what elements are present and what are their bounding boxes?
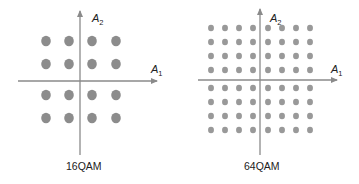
constellation-point [279, 53, 285, 59]
constellation-point [250, 39, 256, 45]
constellation-point [111, 113, 121, 123]
constellation-point [236, 67, 242, 73]
constellation-point [293, 85, 299, 91]
constellation-point [265, 53, 271, 59]
constellation-point [236, 39, 242, 45]
constellation-point [236, 99, 242, 105]
constellation-point [236, 85, 242, 91]
constellation-point [279, 113, 285, 119]
constellation-point [250, 25, 256, 31]
constellation-point [265, 67, 271, 73]
constellation-point [265, 127, 271, 133]
x-axis-label-64qam: A1 [330, 63, 343, 78]
constellation-point [307, 127, 313, 133]
constellation-point [250, 99, 256, 105]
constellation-point [293, 67, 299, 73]
constellation-point [250, 53, 256, 59]
constellation-point [208, 53, 214, 59]
constellation-point [41, 36, 51, 46]
constellation-point [208, 39, 214, 45]
constellation-point [265, 25, 271, 31]
constellation-point [222, 53, 228, 59]
constellation-point [279, 85, 285, 91]
constellation-point [236, 113, 242, 119]
constellation-point [307, 67, 313, 73]
diagram-16qam: A2 A1 16QAM [18, 11, 163, 172]
constellation-point [279, 99, 285, 105]
constellation-point [64, 113, 74, 123]
constellation-point [222, 25, 228, 31]
constellation-point [208, 85, 214, 91]
constellation-point [208, 127, 214, 133]
constellation-point [41, 90, 51, 100]
constellation-point [64, 36, 74, 46]
constellation-point [111, 36, 121, 46]
constellation-point [307, 113, 313, 119]
constellation-point [222, 99, 228, 105]
constellation-point [293, 53, 299, 59]
constellation-point [236, 53, 242, 59]
y-axis-label-64qam: A2 [269, 12, 282, 27]
constellation-point [250, 85, 256, 91]
constellation-point [279, 39, 285, 45]
constellation-point [279, 67, 285, 73]
y-axis-label-16qam: A2 [91, 12, 104, 27]
constellation-point [307, 25, 313, 31]
constellation-point [222, 39, 228, 45]
constellation-point [250, 113, 256, 119]
constellation-point [41, 59, 51, 69]
constellation-point [87, 36, 97, 46]
caption-16qam: 16QAM [66, 160, 102, 172]
constellation-point [307, 99, 313, 105]
constellation-point [265, 113, 271, 119]
constellation-point [208, 67, 214, 73]
constellation-point [222, 85, 228, 91]
constellation-point [293, 99, 299, 105]
constellation-point [265, 99, 271, 105]
constellation-point [222, 127, 228, 133]
constellation-point [208, 25, 214, 31]
constellation-point [87, 59, 97, 69]
constellation-point [111, 90, 121, 100]
x-axis-label-16qam: A1 [150, 63, 163, 78]
constellation-point [293, 113, 299, 119]
constellation-point [64, 90, 74, 100]
constellation-point [208, 99, 214, 105]
constellation-point [307, 53, 313, 59]
constellation-point [111, 59, 121, 69]
diagram-64qam: A2 A1 64QAM [198, 9, 343, 172]
constellation-point [64, 59, 74, 69]
constellation-point [87, 113, 97, 123]
caption-64qam: 64QAM [244, 160, 280, 172]
constellation-point [293, 25, 299, 31]
constellation-point [307, 85, 313, 91]
constellation-point [222, 113, 228, 119]
constellation-point [87, 90, 97, 100]
constellation-point [279, 127, 285, 133]
constellation-point [236, 25, 242, 31]
constellation-point [307, 39, 313, 45]
constellation-point [236, 127, 242, 133]
constellation-point [265, 39, 271, 45]
constellation-point [293, 127, 299, 133]
constellation-point [293, 39, 299, 45]
constellation-point [222, 67, 228, 73]
constellation-point [41, 113, 51, 123]
constellation-point [208, 113, 214, 119]
constellation-point [250, 67, 256, 73]
constellation-point [250, 127, 256, 133]
constellation-points-16qam [41, 36, 121, 123]
qam-constellation-figure: A2 A1 16QAM A2 A1 64QAM [0, 0, 359, 184]
constellation-point [265, 85, 271, 91]
